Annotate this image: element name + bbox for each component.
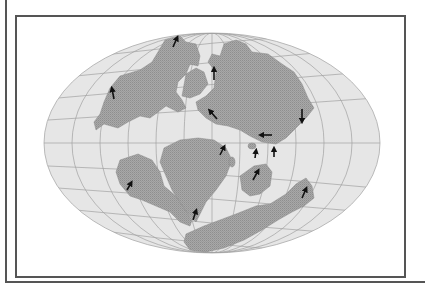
arrow-icon <box>255 151 256 158</box>
